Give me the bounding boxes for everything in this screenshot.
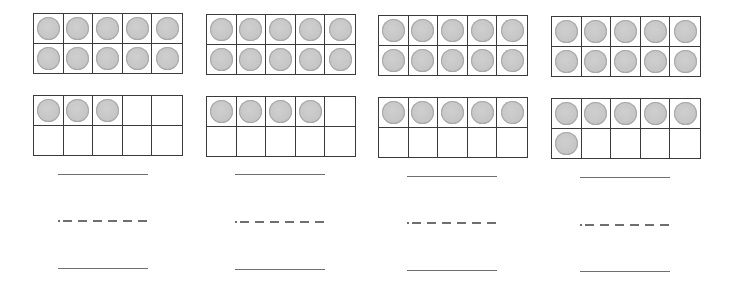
ten-frame-top [551,16,701,77]
ten-frame-cell [611,129,641,159]
ten-frame-cell [325,45,355,75]
counter-dot-icon [239,18,262,41]
counter-dot-icon [555,20,578,43]
baseline-writing-line[interactable] [580,271,670,272]
ten-frame-cell [152,126,182,156]
counter-dot-icon [501,19,524,42]
ten-frame-cell [438,98,468,128]
ten-frame-cell [409,46,439,76]
ten-frame-cell [207,45,237,75]
dashed-midline [409,222,499,224]
counter-dot-icon [584,102,607,125]
counter-dot-icon [96,17,119,40]
ten-frame-cell [296,127,326,157]
counter-dot-icon [614,50,637,73]
ten-frame-cell [93,126,123,156]
ten-frame-cell [34,96,64,126]
baseline-writing-line[interactable] [58,268,148,269]
counter-dot-icon [501,49,524,72]
ten-frame-cell [64,126,94,156]
answer-writing-line[interactable] [407,176,497,177]
dashed-midline [60,220,150,222]
ten-frame-cell [552,99,582,129]
ten-frame-cell [497,16,527,46]
answer-writing-line[interactable] [58,174,148,175]
counter-dot-icon [269,18,292,41]
counter-dot-icon [411,19,434,42]
counter-dot-icon [126,17,149,40]
ten-frame-cell [64,96,94,126]
ten-frame-cell [237,15,267,45]
dashed-midline [582,224,672,226]
baseline-writing-line[interactable] [407,270,497,271]
ten-frame-cell [552,47,582,77]
counter-dot-icon [382,49,405,72]
counter-dot-icon [614,20,637,43]
ten-frame-cell [207,127,237,157]
ten-frame-cell [409,128,439,158]
ten-frame-cell [93,44,123,74]
ten-frame-cell [670,129,700,159]
ten-frame-cell [123,44,153,74]
ten-frame-cell [670,47,700,77]
counter-dot-icon [382,101,405,124]
ten-frame-cell [670,99,700,129]
ten-frame-cell [379,16,409,46]
answer-writing-line[interactable] [235,174,325,175]
ten-frame-cell [582,129,612,159]
counter-dot-icon [441,101,464,124]
counter-dot-icon [674,20,697,43]
counter-dot-icon [299,100,322,123]
counter-dot-icon [210,48,233,71]
ten-frame-cell [64,14,94,44]
counter-dot-icon [584,20,607,43]
counter-dot-icon [471,49,494,72]
counter-dot-icon [584,50,607,73]
ten-frame-cell [409,16,439,46]
ten-frame-cell [611,47,641,77]
counter-dot-icon [501,101,524,124]
counter-dot-icon [210,100,233,123]
ten-frame-cell [93,14,123,44]
ten-frame-cell [552,129,582,159]
counter-dot-icon [674,102,697,125]
ten-frame-top [33,13,183,74]
answer-writing-line[interactable] [580,177,670,178]
ten-frame-top [206,14,356,75]
ten-frame-bottom [378,97,528,158]
baseline-writing-line[interactable] [235,269,325,270]
ten-frame-cell [582,99,612,129]
counter-dot-icon [471,19,494,42]
counter-dot-icon [210,18,233,41]
ten-frame-cell [468,16,498,46]
dashed-midline [237,221,327,223]
ten-frame-cell [438,46,468,76]
ten-frame-cell [409,98,439,128]
ten-frame-bottom [33,95,183,156]
ten-frame-top [378,15,528,76]
counter-dot-icon [382,19,405,42]
ten-frame-cell [64,44,94,74]
ten-frame-cell [296,15,326,45]
counter-dot-icon [66,47,89,70]
counter-dot-icon [66,17,89,40]
counter-dot-icon [37,47,60,70]
ten-frame-cell [497,128,527,158]
ten-frame-cell [552,17,582,47]
ten-frame-cell [123,14,153,44]
counter-dot-icon [644,50,667,73]
counter-dot-icon [471,101,494,124]
counter-dot-icon [555,50,578,73]
counter-dot-icon [37,17,60,40]
ten-frame-cell [237,97,267,127]
counter-dot-icon [156,47,179,70]
ten-frame-cell [325,127,355,157]
counter-dot-icon [329,18,352,41]
counter-dot-icon [614,102,637,125]
ten-frame-cell [582,17,612,47]
ten-frame-cell [34,126,64,156]
counter-dot-icon [644,20,667,43]
ten-frame-cell [237,127,267,157]
counter-dot-icon [156,17,179,40]
counter-dot-icon [441,49,464,72]
